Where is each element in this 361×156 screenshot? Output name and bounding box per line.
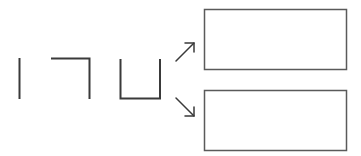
u-shape [121,60,161,99]
output-box-top [205,10,347,70]
shape-sequence-diagram [0,0,361,156]
corner-shape [52,59,90,99]
output-box-bottom [205,91,347,151]
arrow-down-right-icon [176,98,194,116]
arrow-up-right-icon [176,43,194,61]
